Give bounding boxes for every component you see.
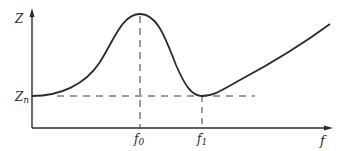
x-axis-arrow-icon bbox=[324, 126, 333, 131]
f0-label: f0 bbox=[133, 132, 144, 147]
impedance-curve bbox=[32, 14, 330, 96]
y-axis-arrow-icon bbox=[30, 8, 35, 17]
impedance-diagram: Z Zn f0 f1 f bbox=[0, 0, 346, 151]
zn-label: Zn bbox=[14, 90, 29, 105]
diagram-svg: Z Zn f0 f1 f bbox=[0, 0, 346, 151]
f1-label: f1 bbox=[196, 132, 207, 147]
y-axis-label: Z bbox=[14, 12, 24, 26]
x-axis-label: f bbox=[319, 133, 327, 148]
